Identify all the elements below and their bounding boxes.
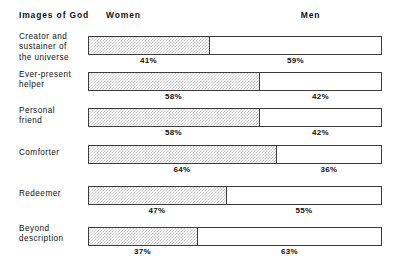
bar-segment-women — [89, 228, 198, 245]
stacked-bar — [88, 72, 382, 91]
bar-segment-women — [89, 37, 210, 54]
bar-segment-men — [260, 109, 382, 126]
value-label-men: 55% — [226, 206, 382, 216]
row-category-label: Beyond description — [19, 224, 87, 245]
stacked-bar — [88, 36, 382, 55]
stacked-bar-chart: Images of God Women Men Creator and sust… — [0, 0, 403, 270]
value-label-men: 36% — [276, 165, 382, 175]
value-label-men: 63% — [197, 247, 382, 257]
value-label-men: 42% — [259, 92, 382, 102]
value-label-women: 64% — [88, 165, 276, 175]
value-label-men: 59% — [209, 56, 382, 66]
row-category-label: Creator and sustainer of the universe — [19, 32, 87, 63]
chart-header: Images of God Women Men — [0, 9, 403, 25]
legend-label-men: Men — [0, 9, 403, 21]
stacked-bar — [88, 145, 382, 164]
bar-segment-men — [210, 37, 382, 54]
row-category-label: Comforter — [19, 148, 87, 158]
stacked-bar — [88, 186, 382, 205]
value-label-women: 58% — [88, 128, 259, 138]
stacked-bar — [88, 108, 382, 127]
bar-segment-men — [277, 146, 382, 163]
value-label-women: 37% — [88, 247, 197, 257]
value-label-women: 58% — [88, 92, 259, 102]
value-label-men: 42% — [259, 128, 382, 138]
stacked-bar — [88, 227, 382, 246]
value-label-women: 47% — [88, 206, 226, 216]
row-category-label: Redeemer — [19, 189, 87, 199]
bar-segment-women — [89, 187, 227, 204]
bar-segment-women — [89, 109, 260, 126]
bar-segment-women — [89, 146, 277, 163]
bar-segment-men — [260, 73, 382, 90]
row-category-label: Ever-present helper — [19, 70, 87, 91]
row-category-label: Personal friend — [19, 106, 87, 127]
bar-segment-women — [89, 73, 260, 90]
bar-segment-men — [198, 228, 382, 245]
value-label-women: 41% — [88, 56, 209, 66]
bar-segment-men — [227, 187, 382, 204]
